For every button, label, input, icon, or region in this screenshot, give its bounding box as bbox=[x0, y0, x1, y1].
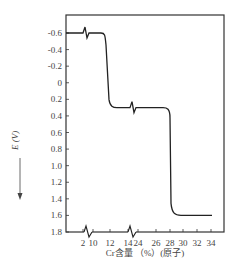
x-axis: 2101214242628303234 bbox=[81, 226, 216, 248]
plot-frame bbox=[66, 15, 224, 232]
x-tick-label: 12 bbox=[106, 238, 115, 248]
x-tick-label: 34 bbox=[207, 238, 217, 248]
chart: -0.6-0.4-0.200.20.40.60.81.01.21.41.61.8… bbox=[0, 0, 235, 276]
y-tick-label: 1.2 bbox=[51, 177, 62, 187]
y-tick-label: 0.2 bbox=[51, 94, 62, 104]
x-tick-label: 10 bbox=[89, 238, 99, 248]
y-tick-label: 0 bbox=[58, 78, 63, 88]
y-axis-arrow-head bbox=[18, 193, 23, 200]
y-tick-label: 1.6 bbox=[51, 210, 63, 220]
x-axis-label: Cr含量 （%）(原子) bbox=[106, 247, 185, 258]
y-axis-label: E (V) bbox=[10, 131, 20, 151]
x-tick-label: 26 bbox=[152, 238, 162, 248]
x-tick-label: 30 bbox=[179, 238, 189, 248]
y-tick-label: 0.8 bbox=[51, 144, 63, 154]
x-tick-label: 14 bbox=[124, 238, 134, 248]
x-tick-label: 24 bbox=[134, 238, 144, 248]
y-tick-label: 1.4 bbox=[51, 194, 63, 204]
y-tick-label: -0.2 bbox=[48, 61, 62, 71]
y-tick-label: 0.6 bbox=[51, 128, 63, 138]
y-tick-label: -0.4 bbox=[48, 45, 63, 55]
y-tick-label: 0.4 bbox=[51, 111, 63, 121]
y-tick-label: 1.8 bbox=[51, 227, 63, 237]
y-tick-label: 1.0 bbox=[51, 161, 63, 171]
x-tick-label: 28 bbox=[166, 238, 176, 248]
data-line bbox=[66, 27, 212, 215]
y-axis-title: E (V) bbox=[10, 131, 20, 151]
x-tick-label: 32 bbox=[193, 238, 202, 248]
y-tick-label: -0.6 bbox=[48, 28, 63, 38]
x-tick-label: 2 bbox=[81, 238, 86, 248]
